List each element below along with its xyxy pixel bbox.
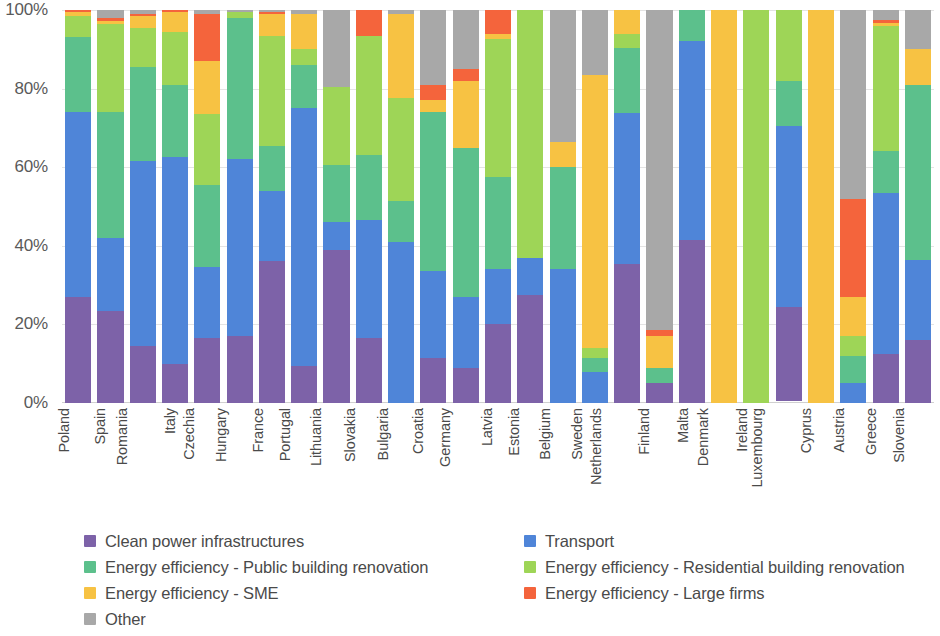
bar-segment[interactable] — [873, 354, 899, 403]
bar-segment[interactable] — [227, 159, 253, 336]
bar-segment[interactable] — [356, 220, 382, 338]
bar-column[interactable] — [223, 10, 255, 403]
bar-segment[interactable] — [453, 10, 479, 69]
bar-segment[interactable] — [194, 338, 220, 403]
bar-segment[interactable] — [550, 269, 576, 403]
legend-item[interactable]: Energy efficiency - SME — [84, 584, 524, 603]
bar-segment[interactable] — [130, 67, 156, 161]
bar-segment[interactable] — [614, 10, 640, 34]
bar-segment[interactable] — [517, 295, 543, 403]
bar-segment[interactable] — [453, 81, 479, 148]
bar-segment[interactable] — [356, 36, 382, 156]
bar-segment[interactable] — [840, 356, 866, 384]
bar-column[interactable] — [256, 10, 288, 403]
bar-segment[interactable] — [291, 14, 317, 49]
bar-segment[interactable] — [453, 297, 479, 368]
bar-segment[interactable] — [840, 10, 866, 199]
bar-segment[interactable] — [582, 372, 608, 403]
bar-segment[interactable] — [227, 18, 253, 159]
bar-column[interactable] — [159, 10, 191, 403]
bar-column[interactable] — [611, 10, 643, 403]
bar-segment[interactable] — [646, 368, 672, 384]
bar-segment[interactable] — [259, 36, 285, 146]
bar-column[interactable] — [127, 10, 159, 403]
bar-segment[interactable] — [905, 49, 931, 84]
bar-column[interactable] — [62, 10, 94, 403]
bar-segment[interactable] — [485, 177, 511, 269]
bar-segment[interactable] — [873, 10, 899, 20]
bar-segment[interactable] — [130, 16, 156, 28]
bar-segment[interactable] — [194, 185, 220, 268]
bar-segment[interactable] — [614, 113, 640, 265]
bar-segment[interactable] — [291, 65, 317, 108]
bar-segment[interactable] — [97, 24, 123, 112]
bar-segment[interactable] — [194, 61, 220, 114]
bar-segment[interactable] — [840, 383, 866, 403]
bar-segment[interactable] — [388, 98, 414, 200]
bar-segment[interactable] — [97, 10, 123, 18]
bar-segment[interactable] — [517, 258, 543, 295]
bar-column[interactable] — [94, 10, 126, 403]
bar-segment[interactable] — [614, 264, 640, 403]
bar-segment[interactable] — [453, 69, 479, 81]
bar-segment[interactable] — [582, 10, 608, 75]
bar-segment[interactable] — [840, 199, 866, 297]
bar-segment[interactable] — [323, 87, 349, 166]
bar-column[interactable] — [676, 10, 708, 403]
bar-segment[interactable] — [162, 157, 188, 363]
bar-column[interactable] — [740, 10, 772, 403]
bar-segment[interactable] — [227, 336, 253, 403]
bar-column[interactable] — [546, 10, 578, 403]
bar-segment[interactable] — [582, 358, 608, 372]
bar-segment[interactable] — [323, 250, 349, 403]
bar-column[interactable] — [514, 10, 546, 403]
bar-column[interactable] — [643, 10, 675, 403]
bar-segment[interactable] — [388, 14, 414, 98]
bar-segment[interactable] — [356, 10, 382, 36]
bar-segment[interactable] — [873, 193, 899, 354]
bar-segment[interactable] — [323, 222, 349, 250]
bar-segment[interactable] — [646, 10, 672, 330]
bar-segment[interactable] — [453, 148, 479, 297]
legend-item[interactable]: Other — [84, 610, 524, 629]
bar-column[interactable] — [450, 10, 482, 403]
bar-column[interactable] — [482, 10, 514, 403]
bar-segment[interactable] — [420, 358, 446, 403]
bar-segment[interactable] — [194, 14, 220, 61]
bar-segment[interactable] — [291, 366, 317, 403]
bar-segment[interactable] — [582, 75, 608, 348]
bar-segment[interactable] — [905, 85, 931, 260]
bar-segment[interactable] — [162, 32, 188, 85]
legend-item[interactable]: Energy efficiency - Large firms — [524, 584, 940, 603]
bar-segment[interactable] — [65, 16, 91, 38]
bar-segment[interactable] — [776, 307, 802, 401]
bar-column[interactable] — [773, 10, 805, 403]
bar-segment[interactable] — [356, 338, 382, 403]
bar-segment[interactable] — [420, 112, 446, 271]
bar-segment[interactable] — [259, 261, 285, 402]
bar-segment[interactable] — [485, 10, 511, 34]
bar-segment[interactable] — [840, 297, 866, 336]
bar-segment[interactable] — [291, 49, 317, 65]
bar-segment[interactable] — [905, 260, 931, 341]
bar-segment[interactable] — [420, 85, 446, 101]
bar-column[interactable] — [417, 10, 449, 403]
bar-segment[interactable] — [323, 165, 349, 222]
bar-segment[interactable] — [97, 238, 123, 311]
bar-segment[interactable] — [614, 48, 640, 113]
legend-item[interactable]: Clean power infrastructures — [84, 532, 524, 551]
bar-segment[interactable] — [808, 10, 834, 403]
bar-segment[interactable] — [905, 10, 931, 49]
bar-segment[interactable] — [840, 336, 866, 356]
bar-segment[interactable] — [485, 324, 511, 403]
bar-segment[interactable] — [65, 112, 91, 297]
bar-segment[interactable] — [420, 271, 446, 357]
bar-segment[interactable] — [582, 348, 608, 358]
bar-segment[interactable] — [485, 269, 511, 324]
bar-segment[interactable] — [550, 167, 576, 269]
bar-segment[interactable] — [873, 151, 899, 192]
bar-column[interactable] — [579, 10, 611, 403]
bar-column[interactable] — [837, 10, 869, 403]
bar-segment[interactable] — [420, 100, 446, 112]
bar-column[interactable] — [288, 10, 320, 403]
